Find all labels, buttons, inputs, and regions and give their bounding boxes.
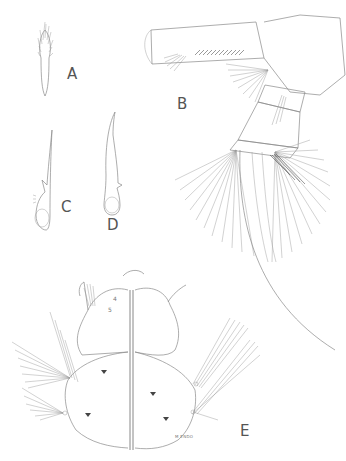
figure-label-d: D <box>107 218 119 233</box>
figure-label-c: C <box>61 200 71 215</box>
illustration-plate <box>0 0 346 461</box>
figure-e-drawing <box>12 270 260 450</box>
figure-d-drawing <box>104 112 122 215</box>
figure-b-drawing <box>145 15 345 350</box>
seta-number-4: 4 <box>113 295 117 302</box>
seta-number-5: 5 <box>108 306 112 313</box>
figure-label-a: A <box>67 67 77 82</box>
illustrator-signature: M ENDO <box>175 434 193 439</box>
figure-c-drawing <box>33 130 52 230</box>
figure-label-e: E <box>240 424 249 439</box>
figure-a-drawing <box>38 22 53 96</box>
figure-label-b: B <box>177 97 187 112</box>
